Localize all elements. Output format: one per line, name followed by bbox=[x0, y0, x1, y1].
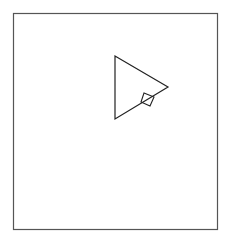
triangle-shape bbox=[115, 56, 168, 119]
diagram-canvas bbox=[0, 0, 232, 248]
frame-border bbox=[14, 14, 218, 230]
